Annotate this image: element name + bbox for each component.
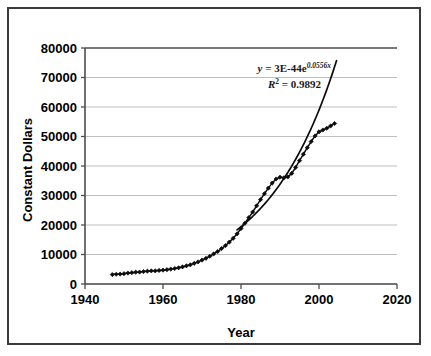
data-point-marker (122, 272, 126, 276)
y-tick-label: 30000 (41, 188, 77, 203)
data-point-marker (177, 266, 181, 270)
data-point-marker (118, 272, 122, 276)
y-tick-label: 60000 (41, 100, 77, 115)
x-tick-labels: 19401960198020002020 (71, 292, 412, 307)
data-point-marker (180, 265, 184, 269)
data-point-marker (169, 267, 173, 271)
data-point-marker (110, 272, 114, 276)
x-tick-label: 2000 (305, 292, 334, 307)
y-axis (81, 48, 85, 284)
chart-plot-area: 0100002000030000400005000060000700008000… (0, 0, 431, 356)
y-axis-title: Constant Dollars (20, 118, 35, 222)
data-point-marker (145, 269, 149, 273)
y-tick-label: 50000 (41, 129, 77, 144)
trendline-equation-label: y = 3E-44e0.0556x (256, 61, 332, 74)
data-point-marker (161, 268, 165, 272)
y-tick-label: 80000 (41, 41, 77, 56)
y-tick-label: 40000 (41, 159, 77, 174)
data-point-marker (157, 268, 161, 272)
data-point-marker (138, 270, 142, 274)
data-point-marker (153, 269, 157, 273)
y-tick-label: 10000 (41, 247, 77, 262)
data-point-marker (141, 270, 145, 274)
data-point-marker (165, 268, 169, 272)
data-point-marker (126, 271, 130, 275)
x-tick-label: 2020 (383, 292, 412, 307)
data-point-marker (173, 266, 177, 270)
data-point-marker (184, 264, 188, 268)
x-tick-label: 1980 (227, 292, 256, 307)
y-tick-labels: 0100002000030000400005000060000700008000… (41, 41, 77, 292)
x-axis (85, 284, 397, 289)
x-axis-title: Year (227, 325, 254, 340)
data-point-marker (130, 271, 134, 275)
x-tick-label: 1940 (71, 292, 100, 307)
r-squared-label: R2 = 0.9892 (267, 77, 322, 90)
y-tick-label: 70000 (41, 70, 77, 85)
x-tick-label: 1960 (149, 292, 178, 307)
y-tick-label: 0 (70, 277, 77, 292)
gridlines (85, 48, 397, 284)
chart-figure: 0100002000030000400005000060000700008000… (0, 0, 431, 356)
y-tick-label: 20000 (41, 218, 77, 233)
